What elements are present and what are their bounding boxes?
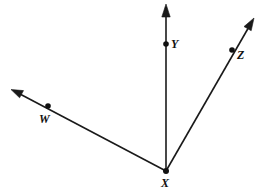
- point-dot-x: [163, 168, 169, 174]
- point-label-x: X: [161, 177, 169, 189]
- ray-xw: [11, 90, 166, 172]
- ray-xz: [166, 18, 254, 171]
- point-dot-w: [45, 103, 51, 109]
- ray-xy: [162, 4, 170, 171]
- point-dot-y: [163, 41, 169, 47]
- point-label-y: Y: [171, 38, 178, 50]
- point-label-z: Z: [237, 49, 244, 61]
- ray-xy-arrowhead: [162, 4, 170, 17]
- point-label-w: W: [39, 113, 50, 125]
- point-dot-z: [229, 47, 235, 53]
- ray-xw-arrowhead: [11, 90, 24, 98]
- ray-xz-arrowhead: [244, 18, 254, 31]
- ray-xw-line: [19, 94, 166, 172]
- geometry-diagram: Y Z W X: [0, 0, 265, 195]
- diagram-canvas: [0, 0, 265, 195]
